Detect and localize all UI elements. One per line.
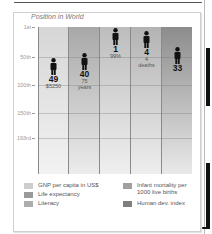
top-rule (14, 2, 202, 3)
value-label: $5250 (38, 83, 69, 89)
rank-value: 49 (38, 75, 69, 83)
legend-swatch (123, 183, 132, 189)
y-tick-50th: 50th (0, 54, 35, 60)
person-icon (173, 47, 182, 64)
y-tick-150th: 150th (0, 110, 35, 116)
legend-swatch (24, 183, 33, 189)
y-tick-1st: 1st (0, 24, 35, 30)
marker-infant-mortality: 4 4 deaths (131, 31, 162, 68)
column-life-expectancy (69, 27, 100, 174)
y-tick-100th: 100th (0, 82, 35, 88)
side-bar-lower (206, 163, 210, 229)
gridline-193rd (38, 138, 192, 139)
chart-title: Position in World (31, 13, 84, 20)
side-bar-upper (206, 48, 210, 106)
column-gnp (38, 27, 69, 174)
rank-value: 33 (162, 64, 193, 72)
marker-gnp: 49 $5250 (38, 58, 69, 89)
person-icon (80, 53, 89, 70)
legend-swatch (123, 201, 132, 207)
rank-value: 1 (100, 45, 131, 53)
legend-swatch (24, 201, 33, 207)
value-unit: deaths (131, 62, 162, 68)
y-tick-193rd: 193rd (0, 135, 35, 141)
marker-human-dev: 33 (162, 47, 193, 72)
value-label: 99% (100, 53, 131, 59)
plot-area: 49 $5250 40 75 years 1 99% 4 4 deaths 33 (38, 27, 192, 174)
right-rule (204, 0, 205, 234)
rank-value: 40 (69, 70, 100, 78)
marker-literacy: 1 99% (100, 28, 131, 59)
rank-value: 4 (131, 48, 162, 56)
person-icon (142, 31, 151, 48)
person-icon (49, 58, 58, 75)
gridline-150th (38, 113, 192, 114)
value-unit: years (69, 84, 100, 90)
person-icon (111, 28, 120, 45)
legend-swatch (24, 192, 33, 198)
marker-life-expectancy: 40 75 years (69, 53, 100, 90)
